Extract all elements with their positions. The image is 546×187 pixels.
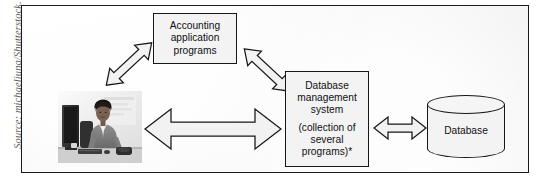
node-accounting-application-programs[interactable]: Accounting application programs [153, 13, 237, 64]
database-cylinder-top-ellipse [427, 95, 505, 114]
figure-root: Source: michaeljung/Shutterstock. Acco [0, 0, 546, 187]
user-photo-graphic [58, 91, 142, 163]
database-label: Database [427, 125, 505, 136]
accounting-line-2: application [171, 32, 220, 44]
connector-user-to-dbms [143, 106, 283, 152]
node-database-management-system[interactable]: Database management system (collection o… [285, 71, 369, 167]
dbms-note-line-1: (collection of [298, 122, 355, 134]
connector-dbms-to-database [372, 114, 428, 142]
diagram-frame: Accounting application programs Database… [21, 5, 529, 173]
dbms-line-3: system [311, 104, 343, 116]
dbms-line-2: management [297, 92, 356, 104]
dbms-note-line-2: several [311, 134, 344, 146]
accounting-line-1: Accounting [170, 20, 220, 32]
node-database[interactable]: Database [427, 95, 505, 167]
dbms-note-line-3: programs)* [302, 146, 352, 158]
dbms-line-1: Database [305, 80, 349, 92]
user-at-computer-photo [58, 91, 142, 163]
accounting-line-3: programs [173, 45, 216, 57]
